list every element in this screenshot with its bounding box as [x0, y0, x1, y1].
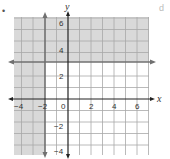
x-axis-label: x — [156, 93, 162, 104]
y-tick-label: −2 — [54, 122, 64, 131]
x-tick-label: −2 — [38, 102, 48, 111]
x-tick-label: 2 — [89, 102, 94, 111]
shaded-region-left — [14, 17, 45, 155]
y-tick-label: 4 — [59, 46, 64, 55]
y-tick-label: −4 — [54, 147, 64, 156]
x-tick-label: −4 — [14, 102, 24, 111]
coordinate-graph: x y −4 −2 0 2 4 6 6 4 2 −2 −4 — [0, 0, 170, 159]
x-tick-label: 0 — [61, 102, 66, 111]
x-tick-label: 6 — [135, 102, 140, 111]
y-axis-label: y — [64, 1, 70, 12]
x-tick-label: 4 — [112, 102, 117, 111]
y-tick-label: 6 — [59, 19, 64, 28]
y-tick-label: 2 — [59, 72, 64, 81]
